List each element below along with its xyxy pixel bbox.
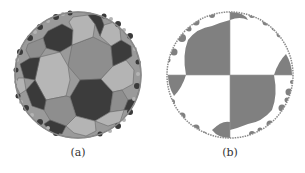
- caption-b: (b): [154, 146, 305, 159]
- panel-a: (a): [0, 0, 152, 173]
- panel-b: (b): [152, 0, 304, 173]
- caption-a: (a): [2, 146, 154, 159]
